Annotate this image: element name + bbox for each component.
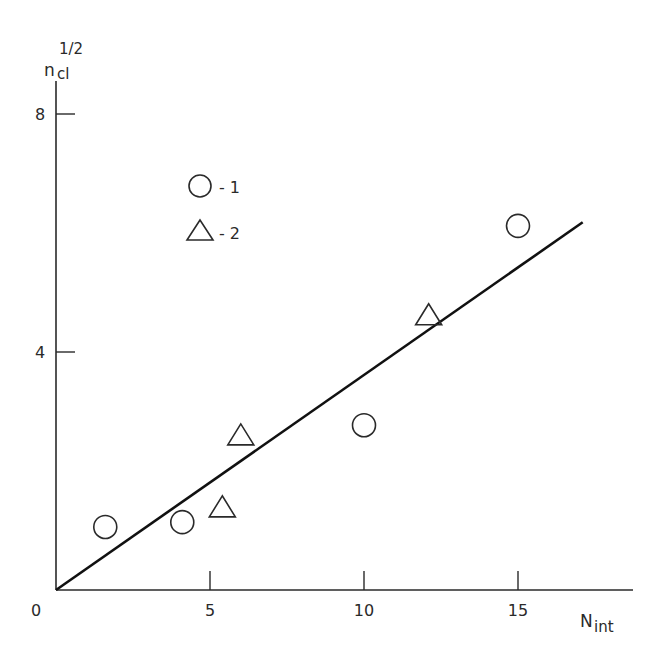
fit-line (56, 222, 583, 590)
circle-marker-icon (507, 214, 530, 237)
legend-label-1: - 1 (219, 178, 240, 197)
x-axis-label: N (580, 611, 593, 631)
axis-tick-labels: 51015480 (31, 105, 528, 620)
legend-circle-icon (189, 175, 211, 197)
legend-label-2: - 2 (219, 224, 240, 243)
axis-ticks (56, 114, 518, 590)
y-tick-label: 4 (35, 343, 45, 362)
y-axis-label-superscript: 1/2 (59, 40, 83, 58)
y-axis-label-subscript: cl (57, 65, 69, 83)
x-tick-label: 5 (205, 601, 215, 620)
circle-marker-icon (94, 515, 117, 538)
y-tick-label: 8 (35, 105, 45, 124)
triangle-marker-icon (416, 304, 442, 325)
triangle-marker-icon (209, 496, 235, 517)
x-tick-label: 10 (354, 601, 374, 620)
scatter-chart: 51015480 n cl 1/2 N int - 1 - 2 (0, 0, 659, 658)
legend-triangle-icon (187, 220, 213, 240)
y-axis-label: n (44, 60, 55, 80)
triangle-marker-icon (228, 424, 254, 445)
circle-marker-icon (353, 414, 376, 437)
circle-marker-icon (171, 511, 194, 534)
x-axis-label-subscript: int (594, 618, 614, 636)
data-points (94, 214, 530, 538)
legend: - 1 - 2 (187, 175, 240, 243)
origin-label: 0 (31, 601, 41, 620)
x-tick-label: 15 (508, 601, 528, 620)
